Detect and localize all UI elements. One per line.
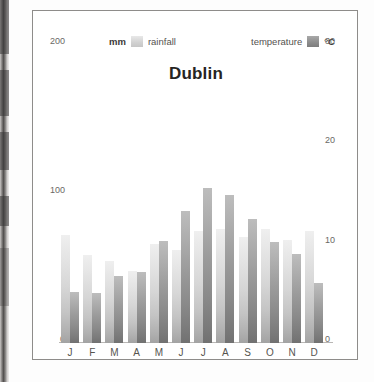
month-group: S: [239, 22, 257, 343]
month-group: J: [194, 22, 212, 343]
month-group: A: [216, 22, 234, 343]
rainfall-bar: [128, 271, 137, 343]
month-group: O: [261, 22, 279, 343]
climate-chart-figure: mm rainfall temperature °C Dublin 200 10…: [32, 10, 358, 360]
temperature-bar: [137, 272, 146, 343]
month-label: A: [215, 347, 235, 358]
month-label: J: [171, 347, 191, 358]
month-group: M: [150, 22, 168, 343]
month-group: D: [305, 22, 323, 343]
month-label: M: [149, 347, 169, 358]
rainfall-bar: [150, 244, 159, 344]
scan-smudge: [0, 132, 9, 170]
plot-area: JFMAMJJASOND: [59, 22, 333, 343]
rainfall-bar: [283, 240, 292, 343]
rainfall-bar: [105, 261, 114, 343]
month-label: N: [282, 347, 302, 358]
month-group: F: [83, 22, 101, 343]
temperature-bar: [292, 254, 301, 343]
temperature-bar: [203, 188, 212, 343]
temperature-bar: [314, 283, 323, 343]
temperature-bar: [225, 195, 234, 343]
month-group: J: [61, 22, 79, 343]
month-label: J: [60, 347, 80, 358]
temperature-bar: [181, 211, 190, 343]
temperature-bar: [159, 241, 168, 343]
month-label: O: [260, 347, 280, 358]
month-label: M: [104, 347, 124, 358]
rainfall-bar: [305, 231, 314, 343]
temperature-bar: [92, 293, 101, 343]
month-label: S: [238, 347, 258, 358]
rainfall-bar: [194, 231, 203, 343]
month-group: J: [172, 22, 190, 343]
rainfall-bar: [61, 235, 70, 343]
temperature-bar: [248, 219, 257, 343]
rainfall-bar: [216, 229, 225, 343]
month-group: N: [283, 22, 301, 343]
rainfall-bar: [239, 237, 248, 343]
month-group: A: [128, 22, 146, 343]
month-group: M: [105, 22, 123, 343]
scan-page-edge-artifact: [0, 0, 9, 382]
scan-smudge: [0, 196, 9, 226]
scan-smudge: [0, 248, 9, 306]
rainfall-bar: [172, 250, 181, 343]
month-label: F: [82, 347, 102, 358]
month-label: A: [127, 347, 147, 358]
temperature-bar: [114, 276, 123, 343]
scan-smudge: [0, 70, 9, 116]
temperature-bar: [270, 242, 279, 343]
temperature-bar: [70, 292, 79, 343]
month-label: J: [193, 347, 213, 358]
month-label: D: [304, 347, 324, 358]
scan-smudge: [0, 0, 9, 54]
rainfall-bar: [261, 229, 270, 343]
rainfall-bar: [83, 255, 92, 343]
